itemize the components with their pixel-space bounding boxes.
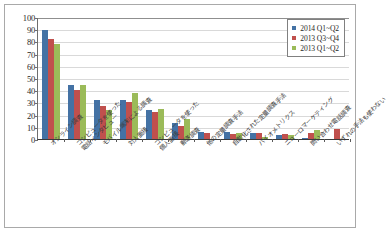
legend-color-swatch — [292, 46, 296, 50]
y-axis-tick-labels: 1009080706050403020100 — [13, 18, 35, 140]
y-axis-tick-label: 80 — [27, 38, 35, 46]
legend-item-label: 2013 Q3~Q4 — [300, 34, 339, 43]
x-axis-tick-mark — [350, 139, 351, 142]
y-axis-tick-label: 0 — [31, 136, 35, 144]
y-axis-tick-label: 70 — [27, 51, 35, 59]
bar-group — [194, 18, 220, 139]
legend-color-swatch — [292, 36, 296, 40]
legend-item[interactable]: 2013 Q1~Q2 — [292, 43, 339, 53]
y-axis-tick-label: 100 — [23, 14, 35, 22]
legend-item[interactable]: 2013 Q3~Q4 — [292, 33, 339, 43]
y-axis-tick-label: 40 — [27, 87, 35, 95]
legend-item-label: 2013 Q1~Q2 — [300, 44, 339, 53]
legend-item-label: 2014 Q1~Q2 — [300, 24, 339, 33]
y-axis-tick-label: 20 — [27, 112, 35, 120]
y-axis-tick-label: 30 — [27, 99, 35, 107]
bar-group — [142, 18, 168, 139]
y-axis-tick-label: 60 — [27, 63, 35, 71]
legend-color-swatch — [292, 26, 296, 30]
y-axis-tick-mark — [35, 140, 38, 141]
x-axis-category-labels: オンライン調査コンピュータを使った電話インタビューモバイル端末による調査対人面接… — [37, 142, 349, 232]
y-axis-tick-label: 50 — [27, 75, 35, 83]
y-axis-tick-label: 10 — [27, 124, 35, 132]
bar-group — [38, 18, 64, 139]
chart-legend: 2014 Q1~Q22013 Q3~Q42013 Q1~Q2 — [287, 19, 345, 57]
chart-plot-wrapper: 1009080706050403020100 オンライン調査コンピュータを使った… — [5, 5, 355, 227]
chart-frame: 1009080706050403020100 オンライン調査コンピュータを使った… — [4, 4, 356, 228]
bar — [54, 44, 60, 139]
y-axis-tick-label: 90 — [27, 26, 35, 34]
legend-item[interactable]: 2014 Q1~Q2 — [292, 23, 339, 33]
